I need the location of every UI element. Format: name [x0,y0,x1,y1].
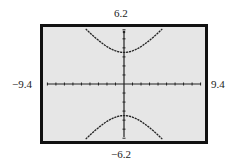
calculator-graph-screen [40,24,208,144]
xmin-label: −9.4 [12,78,32,90]
ymax-label: 6.2 [114,7,128,19]
ymin-label: −6.2 [111,148,131,160]
xmax-label: 9.4 [211,78,225,90]
